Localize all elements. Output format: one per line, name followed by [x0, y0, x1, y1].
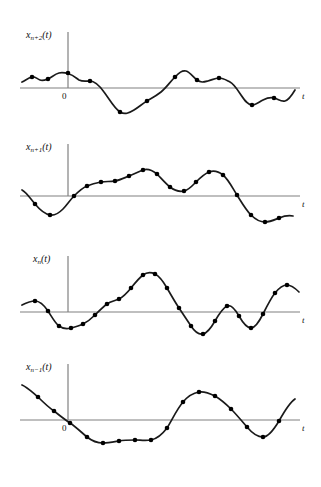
sample-point — [155, 172, 160, 177]
sample-point — [181, 400, 186, 405]
sample-point — [145, 99, 150, 104]
sample-point — [173, 75, 178, 80]
sample-point — [237, 314, 242, 319]
sample-point — [229, 407, 234, 412]
sample-point — [201, 332, 206, 337]
sample-point — [46, 77, 51, 82]
sample-point — [81, 322, 86, 327]
sample-point — [69, 326, 74, 331]
sample-point — [263, 220, 268, 225]
sample-point — [127, 174, 132, 179]
sample-point — [207, 170, 212, 175]
signal-label: xn+1(t) — [26, 142, 52, 154]
sample-point — [33, 202, 38, 207]
sample-point — [225, 304, 230, 309]
sample-point — [85, 184, 90, 189]
sample-point — [85, 435, 90, 440]
panel-xn — [20, 256, 300, 336]
sample-point — [235, 193, 240, 198]
sample-point — [57, 324, 62, 329]
time-axis-label: t — [302, 200, 305, 209]
origin-tick-label: 0 — [62, 92, 67, 101]
sample-point — [72, 194, 77, 199]
panel-xn-minus-1 — [20, 364, 300, 445]
sample-point — [149, 438, 154, 443]
time-axis-label: t — [302, 424, 305, 433]
sample-point — [273, 291, 278, 296]
origin-tick-label: 0 — [62, 424, 67, 433]
waveform-figure: xn+2(t)0txn+1(t)txn(t)txn−1(t)0t — [0, 0, 321, 487]
sample-point — [93, 313, 98, 318]
sample-point — [118, 110, 123, 115]
sample-point — [133, 438, 138, 443]
sample-point — [141, 168, 146, 173]
sample-point — [213, 319, 218, 324]
sample-point — [113, 179, 118, 184]
sample-point — [101, 441, 106, 446]
sample-point — [68, 421, 73, 426]
sample-point — [221, 173, 226, 178]
sample-point — [249, 213, 254, 218]
sample-point — [88, 79, 93, 84]
sample-point — [213, 394, 218, 399]
sample-point — [46, 309, 51, 314]
waveform-curve — [22, 273, 299, 335]
sample-point — [261, 312, 266, 317]
sample-point — [189, 324, 194, 329]
sample-point — [99, 180, 104, 185]
sample-point — [285, 283, 290, 288]
sample-point — [277, 419, 282, 424]
sample-point — [66, 71, 71, 76]
sample-point — [33, 299, 38, 304]
sample-point — [250, 103, 255, 108]
sample-point — [168, 185, 173, 190]
sample-point — [195, 78, 200, 83]
time-axis-label: t — [302, 316, 305, 325]
signal-label: xn(t) — [33, 254, 50, 266]
sample-point — [245, 425, 250, 430]
sample-point — [177, 306, 182, 311]
sample-point — [197, 390, 202, 395]
sample-point — [277, 216, 282, 221]
sample-point — [249, 326, 254, 331]
waveform-curve — [22, 385, 295, 443]
sample-point — [141, 273, 146, 278]
sample-point — [165, 286, 170, 291]
sample-point — [117, 439, 122, 444]
sample-point — [194, 180, 199, 185]
sample-point — [153, 272, 158, 277]
sample-point — [105, 302, 110, 307]
sample-point — [30, 75, 35, 80]
sample-point — [36, 395, 41, 400]
figure-canvas — [0, 0, 321, 487]
sample-point — [52, 409, 57, 414]
sample-point — [272, 96, 277, 101]
sample-point — [129, 286, 134, 291]
sample-point — [48, 213, 53, 218]
signal-label: xn−1(t) — [26, 362, 52, 374]
time-axis-label: t — [302, 92, 305, 101]
panel-xn-plus-2 — [20, 32, 300, 114]
sample-point — [261, 435, 266, 440]
sample-point — [217, 76, 222, 81]
sample-point — [165, 426, 170, 431]
sample-point — [117, 297, 122, 302]
signal-label: xn+2(t) — [26, 30, 52, 42]
panel-xn-plus-1 — [20, 144, 300, 224]
sample-point — [182, 189, 187, 194]
